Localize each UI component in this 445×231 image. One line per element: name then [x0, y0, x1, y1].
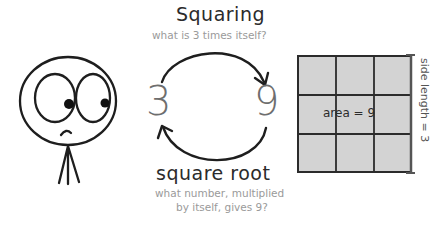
- square-root-question-line2: by itself, gives 9?: [176, 201, 268, 213]
- number-three: 3: [146, 78, 171, 124]
- square-root-question-line1: what number, multiplied: [155, 187, 284, 199]
- left-pupil: [64, 99, 74, 109]
- stick-figure: [20, 57, 116, 184]
- squaring-question: what is 3 times itself?: [152, 29, 267, 41]
- number-nine: 9: [254, 78, 279, 124]
- side-length-label: side length = 3: [418, 58, 431, 142]
- right-eye: [76, 74, 110, 122]
- squaring-arrow: [162, 53, 268, 85]
- mouth: [61, 131, 71, 135]
- right-pupil: [101, 99, 110, 108]
- left-eye: [35, 74, 75, 122]
- square-root-title: square root: [156, 162, 270, 184]
- body-lines: [59, 146, 79, 184]
- squaring-title: Squaring: [176, 3, 265, 25]
- area-label: area = 9: [323, 106, 375, 120]
- square-root-arrow: [158, 126, 266, 160]
